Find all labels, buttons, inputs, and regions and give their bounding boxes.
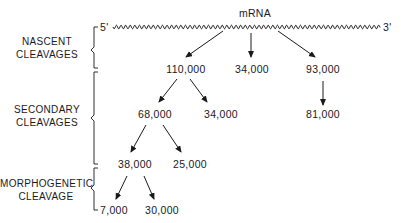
arrow-mrna-to-93000: [278, 31, 315, 57]
section-morphogenetic-line2: CLEAVAGE: [0, 191, 92, 204]
arrow-68000-to-38000: [131, 125, 146, 152]
arrow-mrna-to-110000: [186, 31, 223, 57]
three-prime-label: 3': [383, 21, 391, 34]
arrow-38000-to-7000: [116, 176, 127, 199]
node-81000: 81,000: [298, 108, 348, 121]
node-110000: 110,000: [158, 63, 214, 76]
node-68000: 68,000: [130, 108, 180, 121]
section-nascent-line2: CLEAVAGES: [4, 49, 90, 62]
mrna-label: mRNA: [235, 7, 275, 20]
arrow-68000-to-25000: [163, 125, 181, 152]
section-morphogenetic-line1: MORPHOGENETIC: [0, 178, 92, 191]
node-25000: 25,000: [165, 158, 215, 171]
section-nascent-line1: NASCENT: [4, 36, 90, 49]
node-38000: 38,000: [110, 158, 160, 171]
five-prime-label: 5': [100, 21, 108, 34]
mrna-strand: [113, 25, 380, 29]
node-93000: 93,000: [298, 63, 348, 76]
section-label-nascent: NASCENT CLEAVAGES: [4, 36, 90, 61]
bracket-secondary: [91, 72, 98, 164]
bracket-nascent: [91, 27, 98, 68]
section-label-secondary: SECONDARY CLEAVAGES: [4, 104, 90, 129]
section-secondary-line1: SECONDARY: [4, 104, 90, 117]
node-30000: 30,000: [137, 204, 187, 217]
arrow-110000-to-34000: [190, 79, 207, 102]
node-34000-secondary: 34,000: [196, 108, 246, 121]
node-7000: 7,000: [92, 204, 136, 217]
section-label-morphogenetic: MORPHOGENETIC CLEAVAGE: [0, 178, 92, 203]
arrow-110000-to-68000: [159, 79, 177, 102]
arrow-38000-to-30000: [144, 176, 154, 199]
section-secondary-line2: CLEAVAGES: [4, 117, 90, 130]
node-34000-nascent: 34,000: [227, 63, 277, 76]
